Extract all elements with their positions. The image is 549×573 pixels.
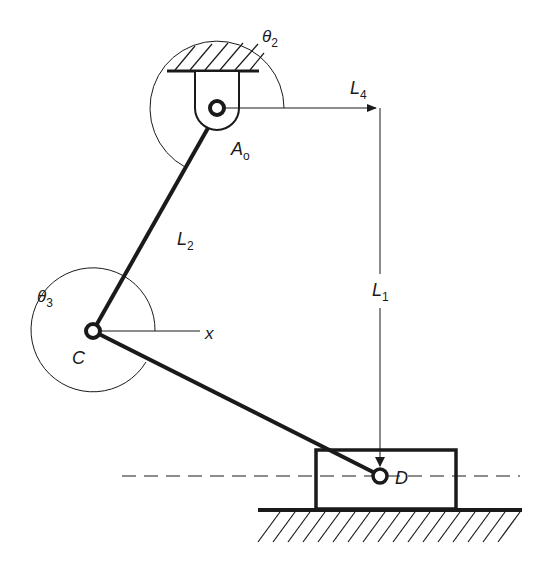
- pin-c: [86, 324, 100, 338]
- theta3-label: θ3: [37, 287, 53, 310]
- theta2-label: θ2: [262, 27, 278, 50]
- l1-label: L1: [372, 280, 389, 304]
- l2-label: L2: [177, 229, 194, 253]
- l4-label: L4: [350, 78, 367, 102]
- bottom-ground: [258, 510, 522, 542]
- c-label: C: [72, 348, 86, 368]
- d-label: D: [395, 468, 408, 488]
- pin-a0: [210, 101, 224, 115]
- slider-crank-diagram: θ2 L4 Ao L2 θ3 L1 x C D: [0, 0, 549, 573]
- link-l2: [93, 128, 208, 331]
- top-ground-support: [167, 43, 264, 71]
- a0-label: Ao: [230, 139, 250, 163]
- pin-d: [373, 469, 387, 483]
- x-axis-label: x: [204, 324, 214, 343]
